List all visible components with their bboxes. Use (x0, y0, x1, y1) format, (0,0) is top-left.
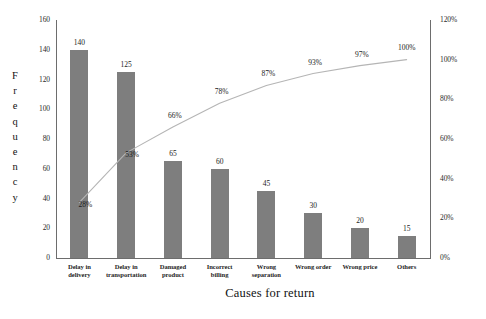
cumulative-percent-label: 28% (71, 201, 99, 209)
cumulative-percent-label: 97% (348, 51, 376, 59)
category-label: Incorrect billing (197, 263, 242, 280)
bar (257, 191, 275, 258)
bar-value-label: 140 (59, 39, 99, 47)
y-axis-left-tick: 120 (26, 76, 50, 84)
y-axis-right-line (430, 20, 431, 258)
y-axis-right-tick: 20% (440, 214, 474, 222)
y-axis-right-tick: 120% (440, 16, 474, 24)
y-axis-left-tick: 80 (26, 135, 50, 143)
bar-value-label: 30 (293, 202, 333, 210)
y-axis-left-tick: 160 (26, 16, 50, 24)
y-axis-title-letter: q (8, 114, 22, 129)
category-label: Delay in transportation (104, 263, 149, 280)
x-axis-title: Causes for return (120, 286, 420, 301)
y-axis-title-letter: F (8, 68, 22, 83)
bar (70, 50, 88, 258)
bar (304, 213, 322, 258)
bar-value-label: 60 (200, 158, 240, 166)
y-axis-title-letter: u (8, 129, 22, 144)
y-axis-title-letter: r (8, 83, 22, 98)
x-axis-line (56, 258, 431, 259)
category-label: Wrong order (291, 263, 336, 271)
y-axis-left-line (56, 20, 57, 258)
bar (351, 228, 369, 258)
category-label: Delay in delivery (57, 263, 102, 280)
y-axis-title-letter: e (8, 98, 22, 113)
y-axis-right-tick: 40% (440, 175, 474, 183)
category-label: Damaged product (151, 263, 196, 280)
y-axis-left-tick: 60 (26, 165, 50, 173)
y-axis-title-letter: c (8, 174, 22, 189)
cumulative-percent-label: 66% (161, 112, 189, 120)
cumulative-percent-label: 78% (208, 88, 236, 96)
cumulative-percent-label: 53% (118, 151, 146, 159)
bar-value-label: 45 (246, 180, 286, 188)
cumulative-percent-label: 100% (393, 44, 421, 52)
bar (211, 169, 229, 258)
y-axis-left-tick: 20 (26, 224, 50, 232)
y-axis-left-tick: 40 (26, 195, 50, 203)
y-axis-title-letter: y (8, 190, 22, 205)
y-axis-left-tick: 140 (26, 46, 50, 54)
cumulative-percent-label: 87% (254, 70, 282, 78)
y-axis-title: Frequency (8, 68, 22, 205)
bar-value-label: 125 (106, 61, 146, 69)
bar-value-label: 15 (387, 225, 427, 233)
category-label: Others (384, 263, 429, 271)
y-axis-title-letter: n (8, 159, 22, 174)
y-axis-right-tick: 80% (440, 95, 474, 103)
category-label: Wrong separation (244, 263, 289, 280)
pareto-chart: 020406080100120140160 0%20%40%60%80%100%… (0, 0, 486, 319)
y-axis-right-tick: 100% (440, 56, 474, 64)
y-axis-left-tick: 100 (26, 105, 50, 113)
y-axis-left-tick: 0 (26, 254, 50, 262)
cumulative-percent-label: 93% (301, 59, 329, 67)
bar (164, 161, 182, 258)
category-label: Wrong price (338, 263, 383, 271)
bar-value-label: 65 (153, 150, 193, 158)
bar (398, 236, 416, 258)
y-axis-title-letter: e (8, 144, 22, 159)
y-axis-right-tick: 60% (440, 135, 474, 143)
y-axis-right-tick: 0% (440, 254, 474, 262)
bar-value-label: 20 (340, 217, 380, 225)
bar (117, 72, 135, 258)
